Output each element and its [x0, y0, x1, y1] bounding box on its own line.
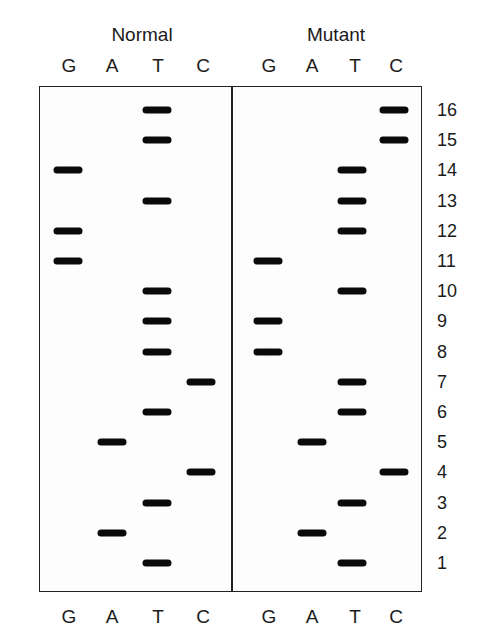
band-normal-c-4	[187, 469, 216, 476]
band-normal-a-2	[98, 529, 127, 536]
band-mutant-t-12	[338, 227, 367, 234]
row-number-8: 8	[437, 341, 447, 362]
band-mutant-c-15	[380, 137, 409, 144]
band-normal-c-7	[187, 378, 216, 385]
lane-label-mutant-c: C	[389, 55, 403, 77]
bottom-lane-label-mutant-c: C	[389, 606, 403, 628]
row-number-6: 6	[437, 402, 447, 423]
lane-label-mutant-g: G	[262, 55, 277, 77]
row-number-2: 2	[437, 522, 447, 543]
row-number-16: 16	[437, 100, 457, 121]
lane-label-mutant-t: T	[349, 55, 361, 77]
band-mutant-c-4	[380, 469, 409, 476]
band-mutant-c-16	[380, 107, 409, 114]
band-normal-t-6	[143, 409, 172, 416]
band-mutant-a-2	[298, 529, 327, 536]
lane-label-normal-g: G	[62, 55, 77, 77]
band-normal-g-11	[54, 258, 83, 265]
lane-label-normal-a: A	[106, 55, 119, 77]
band-mutant-t-3	[338, 499, 367, 506]
band-mutant-g-11	[254, 258, 283, 265]
row-number-4: 4	[437, 462, 447, 483]
bottom-lane-label-normal-g: G	[62, 606, 77, 628]
row-number-15: 15	[437, 130, 457, 151]
band-mutant-t-13	[338, 197, 367, 204]
band-mutant-a-5	[298, 439, 327, 446]
bottom-lane-label-mutant-t: T	[349, 606, 361, 628]
bottom-lane-label-normal-t: T	[152, 606, 164, 628]
bottom-lane-label-normal-a: A	[106, 606, 119, 628]
row-number-9: 9	[437, 311, 447, 332]
band-normal-t-13	[143, 197, 172, 204]
band-normal-g-14	[54, 167, 83, 174]
lane-label-normal-t: T	[152, 55, 164, 77]
row-number-3: 3	[437, 492, 447, 513]
row-number-11: 11	[437, 251, 456, 272]
band-mutant-g-8	[254, 348, 283, 355]
bottom-lane-label-mutant-g: G	[262, 606, 277, 628]
band-normal-g-12	[54, 227, 83, 234]
row-number-12: 12	[437, 220, 457, 241]
row-number-14: 14	[437, 160, 457, 181]
band-mutant-t-10	[338, 288, 367, 295]
gel-divider	[231, 86, 233, 592]
panel-title-normal: Normal	[111, 24, 172, 46]
band-normal-t-15	[143, 137, 172, 144]
band-normal-t-3	[143, 499, 172, 506]
band-normal-t-8	[143, 348, 172, 355]
band-normal-t-16	[143, 107, 172, 114]
band-normal-t-1	[143, 560, 172, 567]
band-mutant-t-7	[338, 378, 367, 385]
row-number-13: 13	[437, 190, 457, 211]
band-mutant-t-6	[338, 409, 367, 416]
band-mutant-t-1	[338, 560, 367, 567]
band-mutant-t-14	[338, 167, 367, 174]
band-normal-t-9	[143, 318, 172, 325]
row-number-10: 10	[437, 281, 457, 302]
row-number-7: 7	[437, 371, 447, 392]
band-mutant-g-9	[254, 318, 283, 325]
row-number-5: 5	[437, 432, 447, 453]
bottom-lane-label-normal-c: C	[196, 606, 210, 628]
band-normal-a-5	[98, 439, 127, 446]
lane-label-normal-c: C	[196, 55, 210, 77]
bottom-lane-label-mutant-a: A	[306, 606, 319, 628]
panel-title-mutant: Mutant	[307, 24, 365, 46]
band-normal-t-10	[143, 288, 172, 295]
lane-label-mutant-a: A	[306, 55, 319, 77]
row-number-1: 1	[437, 553, 447, 574]
